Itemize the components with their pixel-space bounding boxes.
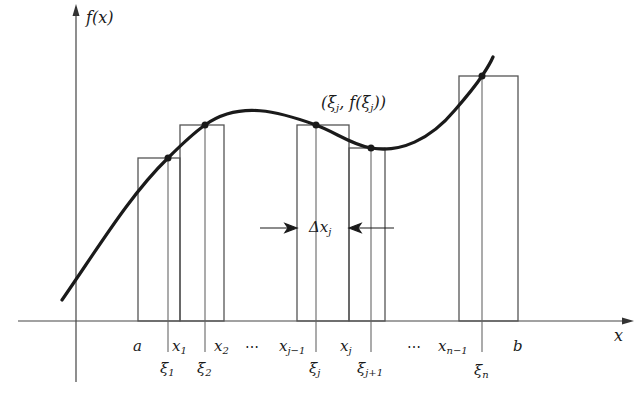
label-xi-n: ξn [474,363,489,380]
point-xi-n [479,73,486,80]
y-axis-label: f(x) [86,10,113,26]
tick-b: b [513,339,523,354]
axes [18,14,624,382]
delta-x-label: Δxj [309,220,331,237]
tick-x-j: xj [340,339,352,356]
tick-x-j-minus-1: xj−1 [279,339,305,356]
x-axis-arrow-icon [622,318,634,325]
diagram-canvas [0,0,637,398]
rectangle-j-plus-1 [349,148,385,321]
point-xi-j [313,122,320,129]
tick-a: a [133,339,142,354]
y-axis-arrow-icon [73,4,80,16]
ellipsis-1: ⋯ [245,340,259,354]
rectangle-2 [180,125,224,321]
function-curve [62,57,493,300]
ellipsis-2: ⋯ [407,340,421,354]
point-xi-1 [165,155,172,162]
sample-points [165,73,486,162]
label-xi-j-plus-1: ξj+1 [357,361,383,378]
label-xi-2: ξ2 [197,361,212,378]
tick-x1: x1 [172,339,187,356]
riemann-sum-diagram: f(x) x (ξj, f(ξj)) Δxj a x1 x2 ⋯ xj−1 xj… [0,0,637,398]
tick-x2: x2 [214,339,229,356]
x-axis-label: x [614,328,623,344]
point-xi-j-plus-1 [368,145,375,152]
label-xi-1: ξ1 [160,361,175,378]
label-xi-j: ξj [309,361,320,378]
point-label: (ξj, f(ξj)) [321,95,386,113]
point-xi-2 [202,122,209,129]
tick-x-n-minus-1: xn−1 [438,339,468,356]
rectangle-n [459,76,518,321]
